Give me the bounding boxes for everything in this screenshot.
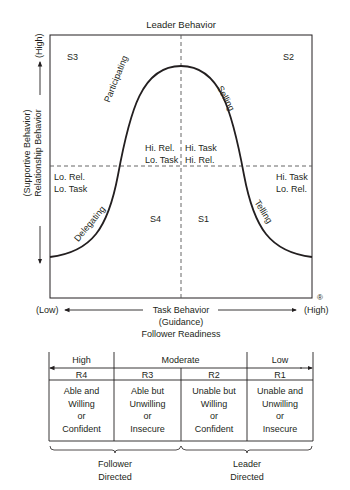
follower-readiness-title: Follower Readiness <box>116 329 246 340</box>
y-axis-high-label: (High) <box>34 33 45 58</box>
readiness-code-r1: R1 <box>247 370 313 381</box>
leader-directed-bracket <box>181 446 312 453</box>
readiness-code-r3: R3 <box>114 370 181 381</box>
readiness-desc-r4: Able andWillingorConfident <box>49 385 114 435</box>
quadrant-s1-label: S1 <box>198 214 209 225</box>
leader-directed-label: LeaderDirected <box>197 458 297 483</box>
readiness-level-low: Low <box>247 355 313 366</box>
readiness-desc-r2: Unable butWillingorConfident <box>181 385 247 435</box>
x-axis-sublabel: (Guidance) <box>131 317 231 328</box>
follower-directed-label: FollowerDirected <box>65 458 165 483</box>
descriptor-top-right: Hi. Task Hi. Rel. <box>185 143 217 166</box>
readiness-level-high: High <box>49 355 114 366</box>
readiness-code-r2: R2 <box>181 370 247 381</box>
readiness-desc-r3: Able butUnwillingorInsecure <box>114 385 181 435</box>
x-axis-high-label: (High) <box>304 305 329 316</box>
descriptor-bottom-right: Hi. Task Lo. Rel. <box>276 172 308 195</box>
y-axis-label-supportive: (Supportive Behavior) <box>22 88 33 218</box>
quadrant-s2-label: S2 <box>283 52 294 63</box>
readiness-code-r4: R4 <box>49 370 114 381</box>
follower-directed-bracket <box>50 446 181 453</box>
quadrant-s3-label: S3 <box>67 52 78 63</box>
x-axis-low-label: (Low) <box>36 305 59 316</box>
y-axis-label-relationship: Relationship Behavior <box>33 88 44 218</box>
leader-behavior-title: Leader Behavior <box>131 19 231 30</box>
readiness-level-moderate: Moderate <box>114 355 247 366</box>
x-axis-label: Task Behavior <box>131 305 231 316</box>
readiness-desc-r1: Unable andUnwillingorInsecure <box>247 385 313 435</box>
descriptor-top-left: Hi. Rel. Lo. Task <box>145 143 178 166</box>
chart-frame <box>50 35 312 298</box>
descriptor-bottom-left: Lo. Rel. Lo. Task <box>54 172 87 195</box>
quadrant-s4-label: S4 <box>150 214 161 225</box>
registered-mark: ® <box>317 292 323 303</box>
